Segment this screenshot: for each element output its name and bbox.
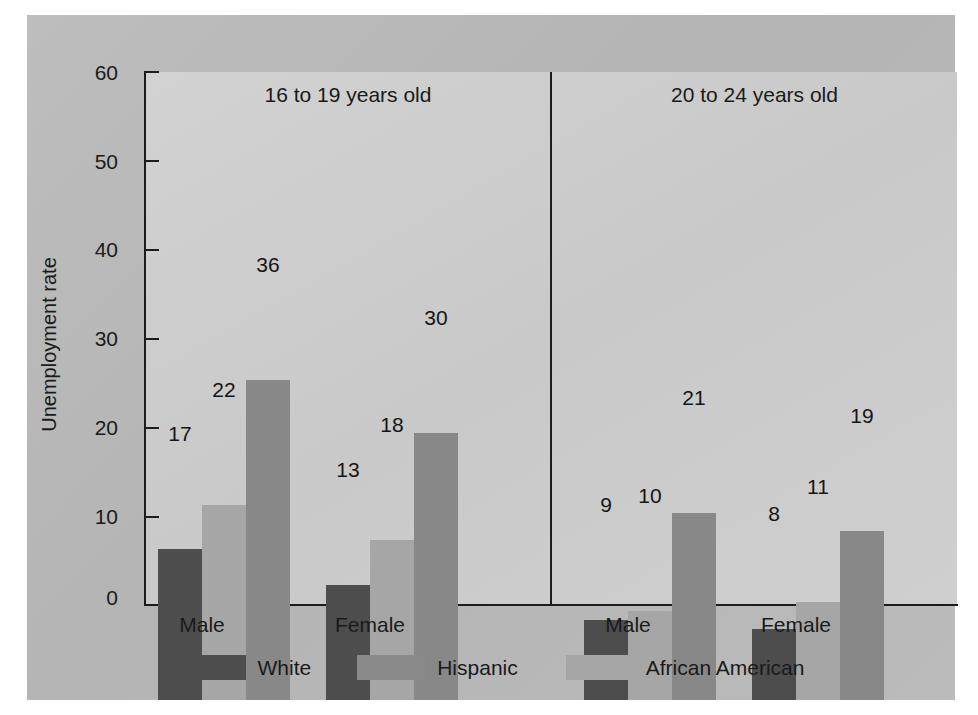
y-tick-label-20: 20 (58, 417, 118, 438)
bar-label-african-american-p1-female: 30 (406, 307, 466, 328)
y-tick-mark-50 (145, 160, 159, 162)
bar-label-hispanic-p2-female: 11 (788, 476, 848, 497)
y-tick-label-0: 0 (58, 587, 118, 608)
x-group-label-p1-female: Female (290, 613, 450, 637)
y-tick-label-60: 60 (58, 62, 118, 83)
panel-divider-line (550, 72, 552, 605)
x-group-label-p2-male: Male (548, 613, 708, 637)
y-tick-label-40: 40 (58, 239, 118, 260)
bar-rect (326, 585, 370, 700)
bar-rect (246, 380, 290, 700)
y-tick-label-30: 30 (58, 328, 118, 349)
legend-swatch-african-american (566, 655, 634, 680)
legend-swatch-hispanic (357, 655, 425, 680)
legend-item-white: White (178, 655, 312, 680)
y-tick-mark-40 (145, 249, 159, 251)
y-tick-label-10: 10 (58, 506, 118, 527)
legend-item-hispanic: Hispanic (357, 655, 518, 680)
bar-label-african-american-p2-female: 19 (832, 405, 892, 426)
bar-label-hispanic-p2-male: 10 (620, 485, 680, 506)
chart-figure: Unemployment rate 60 50 40 30 20 10 0 16… (0, 0, 978, 715)
bar-label-african-american-p2-male: 21 (664, 387, 724, 408)
x-group-label-p1-male: Male (122, 613, 282, 637)
legend-swatch-white (178, 655, 246, 680)
bar-label-white-p2-female: 8 (744, 503, 804, 524)
x-group-label-p2-female: Female (716, 613, 876, 637)
legend-label-african-american: African American (646, 656, 805, 680)
y-tick-mark-60 (145, 71, 159, 73)
chart-card: Unemployment rate 60 50 40 30 20 10 0 16… (27, 15, 955, 700)
legend-label-hispanic: Hispanic (437, 656, 518, 680)
panel-title-left: 16 to 19 years old (145, 83, 551, 107)
legend-item-african-american: African American (566, 655, 805, 680)
bar-label-hispanic-p1-female: 18 (362, 414, 422, 435)
chart-legend: White Hispanic African American (27, 655, 955, 680)
legend-label-white: White (258, 656, 312, 680)
panel-title-right: 20 to 24 years old (552, 83, 957, 107)
bar-label-african-american-p1-male: 36 (238, 254, 298, 275)
y-tick-mark-10 (145, 516, 159, 518)
bar-label-white-p1-male: 17 (150, 423, 210, 444)
bar-label-hispanic-p1-male: 22 (194, 379, 254, 400)
bar-label-white-p1-female: 13 (318, 459, 378, 480)
y-tick-label-50: 50 (58, 151, 118, 172)
y-tick-mark-30 (145, 338, 159, 340)
